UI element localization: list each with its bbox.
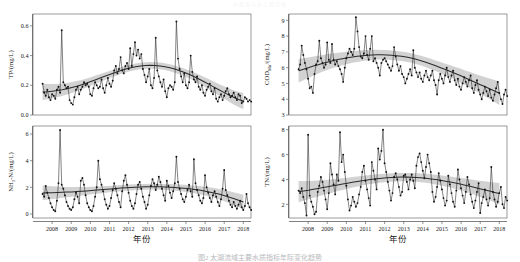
data-point [409,68,411,70]
y-axis: 0.00.20.40.6 [21,14,33,118]
data-point [497,201,499,203]
data-point [210,201,212,203]
data-point [395,56,397,58]
data-point [166,180,168,182]
data-point [142,68,144,70]
data-point [462,82,464,84]
data-point [494,94,496,96]
data-point [134,202,136,204]
data-point [298,68,300,70]
data-point [451,192,453,194]
data-point [73,198,75,200]
data-point [458,86,460,88]
data-point [357,30,359,32]
data-point [487,205,489,207]
data-point [172,89,174,91]
data-point [172,190,174,192]
data-point [195,81,197,83]
data-point [153,77,155,79]
data-point [500,186,502,188]
data-point [191,71,193,73]
x-tick-label: 2008 [302,226,314,232]
data-point [482,196,484,198]
data-point [337,180,339,182]
data-point [439,73,441,75]
y-axis-label-unit: -N/(mg/L) [7,152,15,179]
data-point [113,69,115,71]
data-point [83,81,85,83]
x-tick-label: 2009 [65,226,77,232]
data-point [406,78,408,80]
data-point [431,191,433,193]
y-tick-label: 2 [25,184,28,191]
data-point [497,81,499,83]
y-tick-label: 6 [281,151,284,158]
data-point [344,171,346,173]
data-point [361,171,363,173]
data-point [139,58,141,60]
data-point [342,154,344,156]
data-point [355,16,357,18]
data-point [206,186,208,188]
data-point [371,161,373,163]
data-point [228,200,230,202]
data-point [455,190,457,192]
data-point [326,208,328,210]
x-tick-label: 2016 [199,226,211,232]
data-point [112,189,114,191]
data-point [89,209,91,211]
data-point [102,87,104,89]
data-point [136,55,138,57]
data-point [126,184,128,186]
data-point [169,84,171,86]
data-point [482,92,484,94]
data-point [334,193,336,195]
data-point [454,79,456,81]
y-axis: 2468 [281,126,288,218]
data-point [53,209,55,211]
data-point [152,87,154,89]
data-point [45,185,47,187]
data-point [345,57,347,59]
data-point [344,67,346,69]
data-point [306,68,308,70]
data-point [365,35,367,37]
data-point [215,196,217,198]
data-point [498,92,500,94]
data-point [220,93,222,95]
data-point [164,200,166,202]
data-point [129,47,131,49]
data-point [454,206,456,208]
data-point [470,75,472,77]
data-point [369,205,371,207]
data-point [128,192,130,194]
data-point [427,154,429,156]
data-point [156,69,158,71]
x-tick-label: 2013 [398,226,410,232]
data-point [43,92,45,94]
data-point [427,76,429,78]
data-point [350,51,352,53]
data-point [42,83,44,85]
data-point [180,75,182,77]
data-point [153,182,155,184]
data-point [145,208,147,210]
data-point [121,69,123,71]
x-tick-label: 2012 [123,226,135,232]
data-point [474,200,476,202]
data-point [441,78,443,80]
data-point [54,98,56,100]
data-point [412,180,414,182]
data-point [183,201,185,203]
data-point [353,201,355,203]
data-point [428,79,430,81]
data-point [309,87,311,89]
data-point [425,166,427,168]
data-point [220,198,222,200]
x-tick-label: 2015 [436,226,448,232]
data-point [150,185,152,187]
data-point [207,86,209,88]
data-point [48,197,50,199]
data-point [315,211,317,213]
data-point [129,200,131,202]
